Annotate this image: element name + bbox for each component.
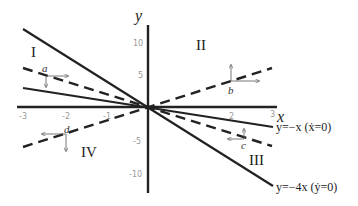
point-a-label: a [42,62,48,74]
y-tick-neg10: -10 [129,170,142,179]
phase-plane-diagram: -3 -2 -1 2 3 10 5 -5 -10 x y I II III IV… [0,0,358,206]
region-IV-label: IV [81,144,97,160]
y-axis-label: y [133,7,143,25]
x-tick-neg3: -3 [19,112,27,121]
point-b-label: b [228,84,234,96]
region-I-label: I [31,44,36,60]
y-nullcline-label: y=−4x (ẏ=0) [276,180,337,194]
point-d-label: d [64,123,70,135]
y-tick-neg5: -5 [133,137,141,146]
point-c-label: c [241,139,246,151]
x-nullcline-label: y=−x (ẋ=0) [276,120,331,134]
y-tick-10: 10 [133,39,143,48]
y-tick-5: 5 [138,71,143,80]
x-tick-2: 2 [229,112,234,121]
region-III-label: III [249,152,264,168]
x-tick-neg2: -2 [62,112,70,121]
x-tick-3: 3 [270,110,275,119]
x-tick-neg1: -1 [103,112,111,121]
region-II-label: II [196,37,206,53]
